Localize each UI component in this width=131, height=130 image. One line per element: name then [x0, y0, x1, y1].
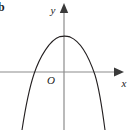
y-axis-label: y	[50, 4, 56, 16]
coordinate-plane-svg: y x O b	[0, 0, 131, 130]
x-axis-arrowhead	[114, 68, 124, 77]
figure-part-label: b	[0, 0, 5, 14]
origin-label: O	[47, 74, 55, 86]
parabola-figure: y x O b	[0, 0, 131, 130]
x-axis-label: x	[121, 77, 127, 89]
y-axis-arrowhead	[60, 3, 68, 13]
